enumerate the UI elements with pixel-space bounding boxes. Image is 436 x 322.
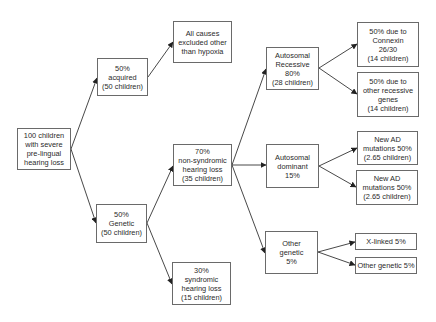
node-x-linked-label: X-linked 5%	[366, 237, 405, 246]
node-other-genetic-leaf-label: Other genetic 5%	[357, 261, 414, 270]
node-non-syndromic: 70% non-syndromic hearing loss (35 child…	[173, 144, 232, 186]
node-genetic-label: 50% Genetic (50 children)	[101, 210, 142, 237]
node-acquired-label: 50% acquired (50 children)	[102, 64, 143, 91]
edge-other-othergenetic	[318, 252, 355, 265]
node-other-genetic-leaf: Other genetic 5%	[355, 257, 417, 274]
hearing-loss-flowchart: 100 children with severe pre-lingual hea…	[0, 0, 436, 322]
node-non-syndromic-label: 70% non-syndromic hearing loss (35 child…	[178, 147, 226, 183]
node-autosomal-dominant-label: Autosomal dominant 15%	[275, 153, 310, 180]
edge-nonsyndromic-ar	[232, 69, 266, 165]
node-autosomal-dominant: Autosomal dominant 15%	[266, 144, 319, 188]
node-hypoxia: All causes excluded other than hypoxia	[173, 21, 232, 63]
node-root-label: 100 children with severe pre-lingual hea…	[24, 131, 64, 167]
edge-ar-connexin	[319, 44, 357, 68]
node-acquired: 50% acquired (50 children)	[97, 58, 148, 96]
node-other-recessive-label: 50% due to other recessive genes (14 chi…	[363, 77, 413, 113]
edge-genetic-syndromic	[147, 223, 172, 284]
node-connexin: 50% due to Connexin 26/30 (14 children)	[357, 22, 419, 67]
node-other-genetic-parent: Other genetic 5%	[265, 231, 318, 274]
node-autosomal-recessive: Autosomal Recessive 80% (28 children)	[266, 47, 319, 90]
edge-ad-newad1	[319, 148, 357, 166]
node-new-ad-1: New AD mutations 50% (2.65 children)	[357, 131, 418, 165]
node-hypoxia-label: All causes excluded other than hypoxia	[178, 29, 226, 56]
edge-other-xlinked	[318, 242, 355, 252]
node-other-recessive: 50% due to other recessive genes (14 chi…	[357, 72, 419, 117]
node-x-linked: X-linked 5%	[355, 233, 417, 250]
node-syndromic-label: 30% syndromic hearing loss (15 children)	[181, 266, 222, 302]
edge-root-genetic	[71, 149, 96, 223]
edge-genetic-nonsyndromic	[147, 166, 173, 223]
edge-ar-otherrecessive	[319, 68, 357, 94]
node-new-ad-2: New AD mutations 50% (2.65 children)	[356, 170, 418, 205]
node-autosomal-recessive-label: Autosomal Recessive 80% (28 children)	[272, 51, 313, 87]
node-other-genetic-parent-label: Other genetic 5%	[280, 239, 304, 266]
edge-root-acquired	[71, 78, 97, 149]
node-new-ad-1-label: New AD mutations 50% (2.65 children)	[363, 135, 412, 162]
node-connexin-label: 50% due to Connexin 26/30 (14 children)	[367, 27, 408, 63]
node-root: 100 children with severe pre-lingual hea…	[17, 128, 71, 170]
node-genetic: 50% Genetic (50 children)	[96, 204, 147, 243]
node-syndromic: 30% syndromic hearing loss (15 children)	[172, 262, 231, 305]
node-new-ad-2-label: New AD mutations 50% (2.65 children)	[363, 174, 412, 201]
edge-ad-newad2	[319, 166, 356, 187]
edge-acquired-hypoxia	[148, 42, 173, 77]
edge-nonsyndromic-other	[232, 165, 265, 253]
